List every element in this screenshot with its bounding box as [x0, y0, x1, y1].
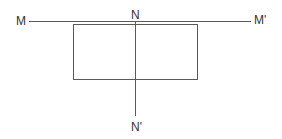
diagram-canvas: M N M' N' [0, 0, 282, 139]
label-m: M [16, 15, 26, 27]
label-m-prime: M' [254, 14, 266, 26]
label-n-prime: N' [131, 121, 142, 133]
label-n: N [131, 9, 140, 21]
diagram-svg [0, 0, 282, 139]
